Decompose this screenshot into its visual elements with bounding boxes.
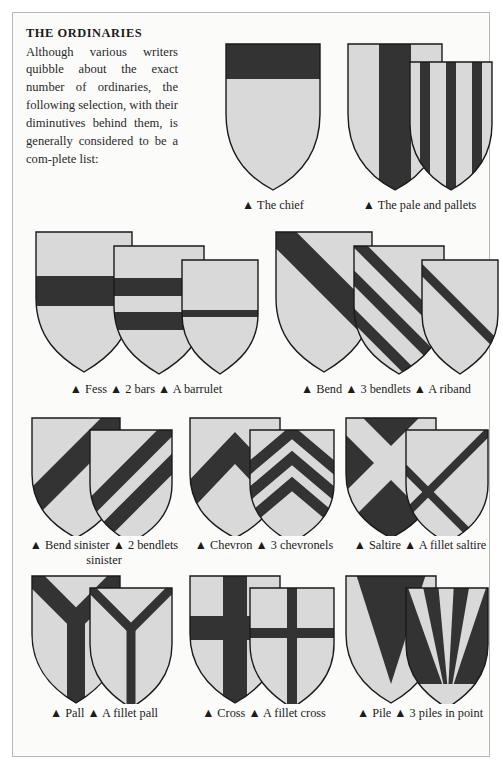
figure-saltire: ▲ Saltire ▲ A fillet saltire (342, 414, 498, 553)
figure-bend-sinister: ▲ Bend sinister ▲ 2 bendlets sinister (28, 414, 180, 569)
shield-pallets (410, 56, 492, 196)
figure-chief: ▲ The chief (208, 36, 338, 213)
shield-group-pale (342, 36, 497, 196)
shield-group-bend (270, 228, 502, 380)
shield-group-bend-sinister (28, 414, 180, 536)
caption-chief: ▲ The chief (208, 198, 338, 213)
charge-chief (218, 44, 330, 79)
shield-group-chief (208, 36, 338, 196)
page-root: THE ORDINARIES Although various writers … (0, 0, 503, 769)
caption-pall: ▲ Pall ▲ A fillet pall (28, 706, 180, 721)
charge-pallet-3 (472, 56, 482, 196)
caption-bend-sinister: ▲ Bend sinister ▲ 2 bendlets sinister (28, 538, 180, 569)
figure-chevron: ▲ Chevron ▲ 3 chevronels (184, 414, 344, 553)
figure-pall: ▲ Pall ▲ A fillet pall (28, 572, 180, 721)
shield-group-chevron (184, 414, 344, 536)
caption-chevron: ▲ Chevron ▲ 3 chevronels (184, 538, 344, 553)
figure-pale-and-pallets: ▲ The pale and pallets (342, 36, 497, 213)
shield-group-pile (342, 572, 498, 704)
intro-paragraph: Although various writers quibble about t… (26, 44, 178, 169)
intro-text-block: THE ORDINARIES Although various writers … (26, 26, 178, 169)
caption-pale: ▲ The pale and pallets (342, 198, 497, 213)
charge-fillet-cross-vertical (287, 582, 297, 704)
page-title: THE ORDINARIES (26, 26, 178, 42)
page-content: THE ORDINARIES Although various writers … (12, 12, 490, 757)
caption-bend: ▲ Bend ▲ 3 bendlets ▲ A riband (270, 382, 502, 397)
figure-fess-bars-barrulet: ▲ Fess ▲ 2 bars ▲ A barrulet (30, 228, 262, 397)
caption-saltire: ▲ Saltire ▲ A fillet saltire (342, 538, 498, 553)
figure-bend-bendlets-riband: ▲ Bend ▲ 3 bendlets ▲ A riband (270, 228, 502, 397)
charge-pallet-1 (420, 56, 430, 196)
caption-pile: ▲ Pile ▲ 3 piles in point (342, 706, 498, 721)
charge-barrulet (176, 310, 262, 317)
shield-group-saltire (342, 414, 498, 536)
charge-pallet-2 (446, 56, 456, 196)
shield-group-fess (30, 228, 262, 380)
shield-group-pall (28, 572, 180, 704)
figure-pile: ▲ Pile ▲ 3 piles in point (342, 572, 498, 721)
shield-chief (218, 44, 330, 190)
figure-cross: ▲ Cross ▲ A fillet cross (184, 572, 344, 721)
shield-barrulet (176, 260, 262, 374)
caption-cross: ▲ Cross ▲ A fillet cross (184, 706, 344, 721)
charge-pale (379, 36, 411, 196)
shield-group-cross (184, 572, 344, 704)
caption-fess: ▲ Fess ▲ 2 bars ▲ A barrulet (30, 382, 262, 397)
shield-bendlets-sinister (90, 420, 178, 536)
shield-piles-in-point (406, 582, 488, 704)
charge-fillet-cross-horizontal (244, 628, 340, 638)
